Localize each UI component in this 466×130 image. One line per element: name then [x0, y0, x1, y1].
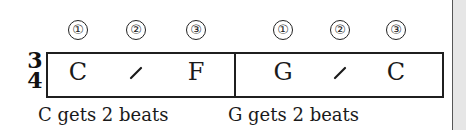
measure-caption: G gets 2 beats — [228, 104, 359, 126]
beat-marker-2: ② — [126, 20, 146, 40]
chord-symbol: G — [273, 57, 292, 87]
chord-chart-bar — [46, 52, 444, 98]
chord-symbol: F — [188, 57, 205, 87]
beat-marker-3: ③ — [386, 20, 406, 40]
measure-caption: C gets 2 beats — [38, 104, 168, 126]
slash-repeat-icon — [332, 62, 348, 82]
beat-marker-1: ① — [68, 20, 88, 40]
beat-marker-3: ③ — [186, 20, 206, 40]
beat-marker-1: ① — [273, 20, 293, 40]
chord-symbol: C — [387, 57, 405, 87]
page-margin-strip — [452, 0, 466, 130]
chord-symbol: C — [69, 57, 87, 87]
time-signature-bottom: 4 — [27, 70, 43, 90]
time-signature: 3 4 — [27, 50, 43, 90]
slash-repeat-icon — [128, 62, 144, 82]
bar-line — [234, 54, 236, 96]
beat-marker-2: ② — [330, 20, 350, 40]
